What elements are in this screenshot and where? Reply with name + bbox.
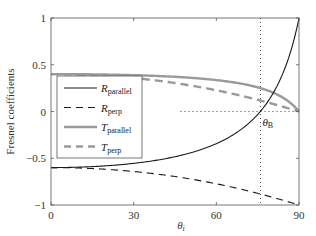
x-tick-label: 30: [128, 209, 140, 221]
y-tick-label: −1: [34, 199, 46, 211]
y-axis-title: Fresnel coefficients: [4, 68, 16, 154]
brewster-label-text: θB: [262, 116, 273, 130]
series-r-perp: [51, 168, 299, 205]
x-tick-label: 60: [211, 209, 223, 221]
y-tick-label: 1: [41, 12, 47, 24]
fresnel-coefficients-chart: 0306090−1−0.500.51 Fresnel coefficients …: [0, 0, 316, 236]
y-tick-label: −0.5: [26, 152, 46, 164]
brewster-angle-label: θB: [262, 116, 273, 130]
annotation-layer: [181, 18, 299, 205]
y-tick-label: 0: [41, 106, 47, 118]
x-tick-label: 90: [294, 209, 306, 221]
x-tick-label: 0: [48, 209, 54, 221]
legend: RparallelRperpTparallelTperp: [57, 76, 142, 158]
y-tick-label: 0.5: [32, 59, 46, 71]
x-axis-title: θi: [177, 219, 185, 233]
